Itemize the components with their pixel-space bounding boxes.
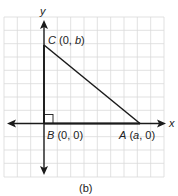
vertex-label-a: A (a, 0) <box>118 129 155 141</box>
x-axis-label: x <box>168 117 175 129</box>
figure-caption: (b) <box>79 182 92 194</box>
coordinate-diagram: y x C (0, b) B (0, 0) A (a, 0) (b) <box>0 0 178 196</box>
vertex-label-c: C (0, b) <box>48 34 85 46</box>
right-angle-marker-icon <box>44 115 53 124</box>
y-axis-label: y <box>39 5 47 17</box>
vertex-label-b: B (0, 0) <box>47 129 83 141</box>
